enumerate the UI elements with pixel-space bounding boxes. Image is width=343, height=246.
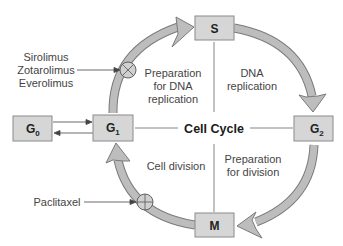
phase-box-g1: G1 (93, 115, 133, 141)
svg-text:Preparation: Preparation (225, 153, 282, 165)
svg-text:Sirolimus: Sirolimus (23, 51, 69, 63)
quadrant-top-left-label: Preparation for DNA replication (145, 67, 202, 105)
svg-text:M: M (210, 219, 220, 233)
svg-text:replication: replication (227, 80, 277, 92)
inhibitor-label-g1-s: Sirolimus Zotarolimus Everolimus (17, 51, 75, 89)
svg-text:for division: for division (227, 166, 280, 178)
inhibitor-label-m-g1: Paclitaxel (33, 196, 80, 208)
svg-text:Zotarolimus: Zotarolimus (17, 64, 75, 76)
g0-g1-arrows (53, 120, 93, 136)
inhibitor-symbol-m-g1 (137, 194, 153, 210)
diagram-title: Cell Cycle (184, 122, 244, 136)
svg-text:for DNA: for DNA (153, 80, 193, 92)
phase-box-s: S (195, 16, 234, 40)
cell-cycle-diagram: S G2 M G1 G0 Cell Cycle Preparation for … (0, 0, 343, 246)
svg-text:Paclitaxel: Paclitaxel (33, 196, 80, 208)
svg-text:DNA: DNA (240, 67, 264, 79)
quadrant-bottom-left-label: Cell division (147, 160, 206, 172)
phase-box-g0: G0 (13, 116, 52, 141)
phase-box-m: M (195, 213, 234, 237)
quadrant-bottom-right-label: Preparation for division (225, 153, 282, 178)
arrowhead-to-g2 (299, 94, 326, 112)
arrowhead-to-g1 (106, 143, 130, 163)
quadrant-top-right-label: DNA replication (227, 67, 277, 92)
phase-box-g2: G2 (294, 116, 333, 141)
inhibitor-symbol-g1-s (120, 62, 136, 78)
svg-text:Preparation: Preparation (145, 67, 202, 79)
svg-text:Cell division: Cell division (147, 160, 206, 172)
svg-text:S: S (210, 22, 218, 36)
svg-text:Everolimus: Everolimus (19, 77, 74, 89)
svg-text:replication: replication (148, 93, 198, 105)
